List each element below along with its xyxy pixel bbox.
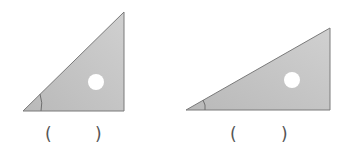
right-answer-blank[interactable]	[240, 126, 280, 144]
left-hole	[88, 74, 104, 90]
right-triangle-body	[186, 28, 330, 110]
right-answer-close-paren: )	[281, 126, 288, 143]
left-answer-close-paren: )	[95, 126, 102, 143]
right-set-square	[186, 28, 330, 110]
right-hole	[284, 72, 300, 88]
left-set-square	[23, 12, 124, 111]
left-answer-blank[interactable]	[55, 126, 95, 144]
diagram-canvas	[0, 0, 349, 157]
left-triangle-body	[23, 12, 124, 111]
left-answer-open-paren: (	[45, 126, 52, 143]
right-answer-open-paren: (	[230, 126, 237, 143]
